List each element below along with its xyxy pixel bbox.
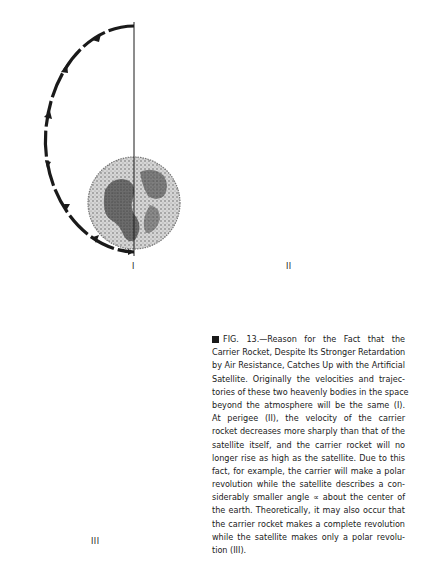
caption-line: satellite itself, and the carrier rocket… (212, 439, 405, 452)
caption-line: fact, for example, the carrier will make… (212, 465, 405, 478)
caption-line: the carrier rocket makes a complete revo… (212, 518, 405, 531)
caption-line: Carrier Rocket, Despite Its Stronger Ret… (212, 346, 405, 359)
caption-line: beyond the atmosphere will be the same (… (212, 399, 405, 412)
caption-line: by Air Resistance, Catches Up with the A… (212, 359, 405, 372)
caption-line: siderably smaller angle ∝ about the cent… (212, 491, 405, 504)
caption-line: tories of these two heavenly bodies in t… (212, 386, 405, 399)
bullet-square-icon (212, 336, 219, 343)
caption-line: rocket decreases more sharply than that … (212, 425, 405, 438)
figure-caption: FIG. 13.—Reason for the Fact that the Ca… (212, 333, 405, 557)
caption-line: At perigee (II), the velocity of the car… (212, 412, 405, 425)
caption-line: tion (III). (212, 544, 405, 557)
caption-line: Satellite. Originally the velocities and… (212, 373, 405, 386)
caption-line-1: FIG. 13.—Reason for the Fact that the (212, 333, 405, 346)
caption-line: longer rise as high as the satellite. Du… (212, 452, 405, 465)
panel-label-ii: II (286, 262, 292, 271)
panel-label-iii: III (91, 537, 100, 546)
caption-line: revolution while the satellite describes… (212, 478, 405, 491)
panel-i (44, 22, 180, 256)
caption-line: the earth. Theoretically, it may also oc… (212, 504, 405, 517)
panel-label-i: I (132, 262, 135, 271)
caption-line: while the satellite makes only a polar r… (212, 531, 405, 544)
